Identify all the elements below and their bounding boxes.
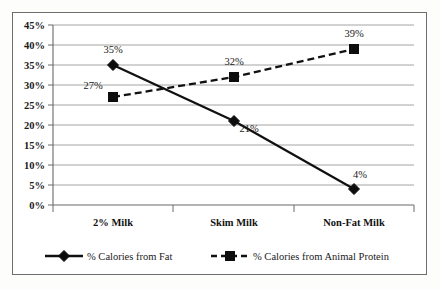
x-axis-labels: 2% Milk Skim Milk Non-Fat Milk xyxy=(93,217,385,228)
data-label-fat-0: 35% xyxy=(103,44,123,55)
x-tick-label-skim-milk: Skim Milk xyxy=(210,217,258,228)
y-tick-label: 15% xyxy=(24,140,45,151)
x-tick-label-non-fat-milk: Non-Fat Milk xyxy=(323,217,385,228)
legend-label-calories-from-fat: % Calories from Fat xyxy=(87,251,173,262)
y-tick-label: 20% xyxy=(24,120,45,131)
series-markers-animal-protein xyxy=(109,45,359,102)
square-icon xyxy=(226,252,235,261)
y-axis-labels: 45% 40% 35% 30% 25% 20% 15% 10% 5% 0% xyxy=(24,20,45,211)
data-point-protein-1 xyxy=(230,73,239,82)
y-tick-label: 10% xyxy=(24,160,45,171)
chart-legend: % Calories from Fat % Calories from Anim… xyxy=(45,251,390,263)
y-tick-label: 0% xyxy=(29,200,45,211)
y-tickmarks xyxy=(48,25,53,205)
y-tick-label: 25% xyxy=(24,100,45,111)
diamond-icon xyxy=(59,251,70,262)
x-tickmarks xyxy=(53,205,414,212)
data-labels-animal-protein: 27% 32% 39% xyxy=(83,28,364,91)
data-label-fat-2: 4% xyxy=(353,169,367,180)
legend-item-calories-from-fat[interactable]: % Calories from Fat xyxy=(45,251,173,263)
data-label-protein-2: 39% xyxy=(344,28,364,39)
y-tick-label: 40% xyxy=(24,40,45,51)
y-tick-label: 45% xyxy=(24,20,45,31)
data-label-protein-1: 32% xyxy=(224,56,244,67)
y-tick-label: 5% xyxy=(29,180,45,191)
data-point-protein-0 xyxy=(109,93,118,102)
data-label-protein-0: 27% xyxy=(83,80,103,91)
legend-item-animal-protein[interactable]: % Calories from Animal Protein xyxy=(211,251,390,262)
x-tick-label-2-percent-milk: 2% Milk xyxy=(93,217,133,228)
y-tick-label: 35% xyxy=(24,60,45,71)
data-point-protein-2 xyxy=(350,45,359,54)
legend-label-animal-protein: % Calories from Animal Protein xyxy=(253,251,390,262)
y-tick-label: 30% xyxy=(24,80,45,91)
series-line-calories-from-fat xyxy=(113,65,354,189)
chart-root: 45% 40% 35% 30% 25% 20% 15% 10% 5% 0% 2%… xyxy=(0,0,440,289)
chart-frame: 45% 40% 35% 30% 25% 20% 15% 10% 5% 0% 2%… xyxy=(12,12,427,275)
line-chart: 45% 40% 35% 30% 25% 20% 15% 10% 5% 0% 2%… xyxy=(13,13,426,274)
data-point-fat-0 xyxy=(108,60,119,71)
data-label-fat-1: 21% xyxy=(239,123,259,134)
